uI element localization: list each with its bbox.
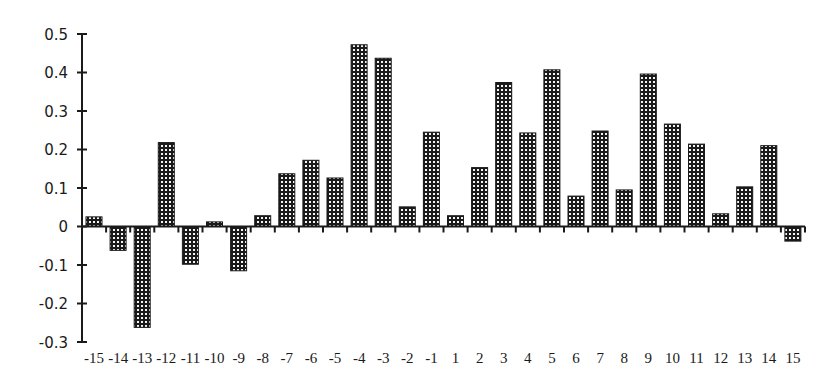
y-tick-label: 0.3 [44, 103, 68, 121]
x-tick-label: 6 [572, 350, 580, 366]
x-tick-label: -11 [181, 350, 200, 366]
x-tick-label: 15 [785, 350, 800, 366]
x-tick-label: 4 [524, 350, 532, 366]
bar-13 [737, 187, 753, 227]
y-tick-label: 0.4 [44, 64, 68, 82]
bar--7 [279, 174, 295, 227]
bar-chart: 0.50.40.30.20.10-0.1-0.2-0.3 -15-14-13-1… [0, 0, 835, 389]
bar--9 [231, 227, 247, 271]
x-tick-label: 12 [713, 350, 728, 366]
x-tick-label: -15 [84, 350, 104, 366]
bar-8 [616, 190, 632, 227]
x-tick-label: 13 [737, 350, 752, 366]
bar-7 [592, 131, 608, 226]
y-tick-label: 0.2 [44, 141, 68, 159]
x-tick-label: -9 [232, 350, 245, 366]
x-tick-label: 10 [665, 350, 680, 366]
x-tick-label: -4 [353, 350, 366, 366]
x-tick-label: -1 [425, 350, 438, 366]
bar-15 [785, 227, 801, 242]
x-tick-label: 9 [645, 350, 653, 366]
y-tick-label: -0.3 [39, 334, 68, 352]
x-tick-label: 11 [689, 350, 703, 366]
bar--6 [303, 160, 319, 226]
x-tick-label: -7 [281, 350, 294, 366]
x-tick-label: -13 [132, 350, 152, 366]
bar--13 [134, 227, 150, 328]
x-tick-label: -14 [108, 350, 128, 366]
bar-1 [448, 216, 464, 227]
bar--14 [110, 227, 126, 251]
bar-2 [472, 168, 488, 227]
y-tick-label: 0.1 [44, 180, 68, 198]
x-tick-label: 14 [761, 350, 777, 366]
bar-14 [761, 146, 777, 227]
bar-6 [568, 196, 584, 226]
x-tick-label: 7 [596, 350, 604, 366]
bar--5 [327, 178, 343, 227]
bar--4 [351, 45, 367, 227]
y-tick-label: -0.1 [39, 257, 68, 275]
x-tick-label: -5 [329, 350, 342, 366]
bar--12 [158, 143, 174, 227]
bar-12 [713, 214, 729, 227]
y-tick-label: -0.2 [39, 295, 68, 313]
bar--15 [86, 217, 102, 227]
y-tick-label: 0.5 [44, 26, 68, 44]
x-axis-tick-labels: -15-14-13-12-11-10-9-8-7-6-5-4-3-2-11234… [84, 350, 800, 366]
x-tick-label: -10 [205, 350, 225, 366]
bar--2 [399, 207, 415, 227]
bar-10 [664, 124, 680, 226]
bar-4 [520, 133, 536, 227]
x-tick-label: 3 [500, 350, 508, 366]
bar--3 [375, 58, 391, 226]
x-tick-label: 8 [621, 350, 629, 366]
x-tick-label: -12 [156, 350, 176, 366]
x-tick-label: 2 [476, 350, 484, 366]
x-tick-label: 1 [452, 350, 460, 366]
bars [86, 45, 801, 328]
y-axis-tick-labels: 0.50.40.30.20.10-0.1-0.2-0.3 [39, 26, 68, 352]
bar--8 [255, 216, 271, 227]
x-tick-label: 5 [548, 350, 556, 366]
bar-9 [640, 74, 656, 226]
bar--1 [423, 132, 439, 226]
x-tick-label: -2 [401, 350, 414, 366]
y-tick-label: 0 [58, 218, 68, 236]
x-tick-label: -3 [377, 350, 390, 366]
x-tick-label: -8 [257, 350, 270, 366]
bar-3 [496, 83, 512, 227]
x-tick-label: -6 [305, 350, 318, 366]
bar--11 [182, 227, 198, 265]
bar-5 [544, 70, 560, 227]
bar-11 [689, 144, 705, 226]
